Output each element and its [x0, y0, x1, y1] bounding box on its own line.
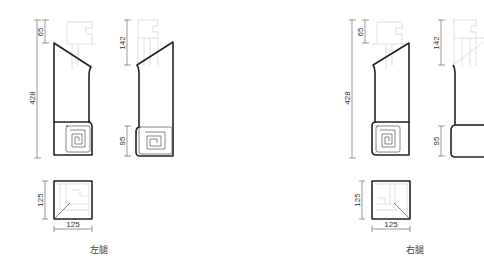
- dim-right-total-height: 428: [343, 91, 352, 105]
- dim-right-front-bottom: 95: [432, 136, 441, 145]
- drawing-canvas: 428 65 142 95 125 125 左腿: [0, 0, 484, 268]
- right-leg-front-view: 142 95: [432, 20, 484, 157]
- dim-right-top-offset: 65: [356, 27, 365, 36]
- dim-left-total-height: 428: [28, 91, 37, 105]
- dim-left-section-width: 125: [66, 220, 80, 229]
- left-leg-side-view: 428 65: [28, 20, 96, 158]
- dim-right-section-width: 125: [384, 220, 398, 229]
- right-leg-side-view: 428 65: [343, 20, 409, 158]
- left-leg-front-view: 142 95: [118, 20, 173, 156]
- right-leg-section: 125 125: [353, 181, 410, 232]
- dim-right-front-top: 142: [432, 36, 441, 50]
- left-leg-caption: 左腿: [90, 244, 108, 255]
- dim-left-top-offset: 65: [36, 27, 45, 36]
- dim-left-section-height: 125: [36, 193, 45, 207]
- dim-left-front-bottom: 95: [118, 136, 127, 145]
- right-leg-group: 428 65 142 95 125 125 右腿: [343, 20, 484, 255]
- dim-right-section-height: 125: [353, 193, 362, 207]
- right-leg-caption: 右腿: [406, 244, 424, 255]
- dim-left-front-top: 142: [118, 36, 127, 50]
- left-leg-section: 125 125: [36, 181, 92, 232]
- left-leg-group: 428 65 142 95 125 125 左腿: [28, 20, 173, 255]
